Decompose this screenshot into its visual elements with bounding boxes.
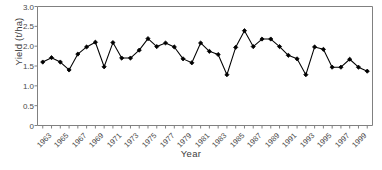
data-point	[242, 29, 246, 33]
data-point	[41, 60, 45, 64]
axis-lines	[38, 7, 373, 126]
data-point	[321, 47, 325, 51]
data-point	[330, 65, 334, 69]
series-markers-yield	[41, 29, 370, 77]
data-point	[163, 41, 167, 45]
data-point	[190, 61, 194, 65]
data-point	[93, 40, 97, 44]
data-point	[120, 56, 124, 60]
data-point	[49, 56, 53, 60]
data-point	[313, 45, 317, 49]
data-point	[216, 52, 220, 56]
data-point	[295, 57, 299, 61]
data-point	[102, 65, 106, 69]
data-point	[111, 40, 115, 44]
data-point	[365, 69, 369, 73]
plot-area	[0, 0, 382, 170]
data-point	[304, 73, 308, 77]
data-point	[225, 73, 229, 77]
data-point	[234, 45, 238, 49]
series-line-yield	[43, 31, 367, 75]
yield-line-chart: Yield (t/ha) Year 00.51.01.52.02.53.0 19…	[0, 0, 382, 170]
